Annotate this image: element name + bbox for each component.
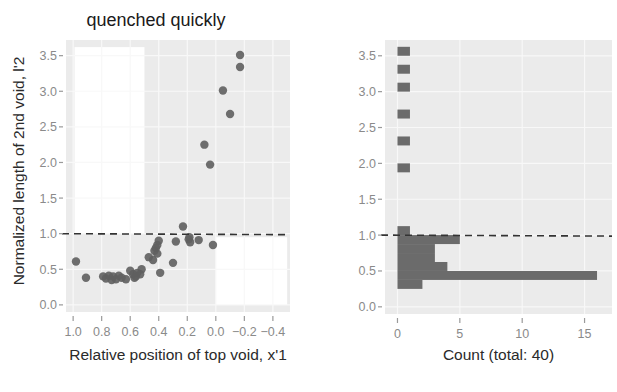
y-tick-label: 0.5	[359, 264, 376, 278]
data-point	[72, 257, 80, 265]
data-point	[156, 269, 164, 277]
data-point	[169, 259, 177, 267]
x-tick-label: 0.8	[93, 325, 110, 339]
histogram-bar	[397, 271, 597, 280]
y-tick-label: 2.0	[359, 157, 376, 171]
histogram-bar	[397, 65, 409, 74]
x-tick-label: 0.2	[179, 325, 196, 339]
x-tick-label: 1.0	[64, 325, 81, 339]
y-tick-label: 1.0	[359, 229, 376, 243]
data-point	[172, 237, 180, 245]
x-tick-label: 10	[515, 327, 529, 341]
x-tick-label: −0.2	[232, 325, 257, 339]
chart-canvas: 0.00.51.01.52.02.53.03.51.00.80.60.40.20…	[0, 0, 617, 392]
x-axis-title: Relative position of top void, x'1	[69, 346, 287, 363]
figure: 0.00.51.01.52.02.53.03.51.00.80.60.40.20…	[0, 0, 617, 392]
y-tick-label: 3.0	[40, 85, 57, 99]
y-tick-label: 2.5	[359, 121, 376, 135]
y-tick-label: 3.5	[359, 49, 376, 63]
data-point	[206, 160, 214, 168]
excluded-region	[216, 237, 287, 305]
histogram-panel: 0.00.51.01.52.02.53.03.5051015Count (tot…	[359, 40, 612, 363]
data-point	[226, 110, 234, 118]
histogram-bar	[397, 163, 409, 172]
data-point	[155, 237, 163, 245]
x-tick-label: 0.6	[122, 325, 139, 339]
y-tick-label: 1.5	[40, 192, 57, 206]
x-tick-label: 0.0	[207, 325, 224, 339]
histogram-bar	[397, 253, 434, 262]
histogram-bar	[397, 47, 409, 56]
data-point	[236, 63, 244, 71]
data-point	[219, 86, 227, 94]
x-tick-label: 0	[394, 327, 401, 341]
histogram-bar	[397, 83, 409, 92]
y-tick-label: 0.5	[40, 263, 57, 277]
y-tick-label: 1.5	[359, 193, 376, 207]
y-tick-label: 2.0	[40, 156, 57, 170]
data-point	[209, 241, 217, 249]
x-tick-label: 5	[456, 327, 463, 341]
data-point	[194, 236, 202, 244]
x-axis-title: Count (total: 40)	[443, 346, 554, 363]
data-point	[179, 222, 187, 230]
histogram-bar	[397, 136, 409, 145]
scatter-panel: 0.00.51.01.52.02.53.03.51.00.80.60.40.20…	[10, 10, 290, 363]
data-point	[107, 276, 115, 284]
histogram-bar	[397, 226, 409, 235]
x-tick-label: 0.4	[150, 325, 167, 339]
data-point	[153, 249, 161, 257]
y-tick-label: 2.5	[40, 120, 57, 134]
data-point	[236, 51, 244, 59]
data-point	[200, 140, 208, 148]
histogram-bar	[397, 235, 459, 244]
excluded-region	[75, 47, 145, 234]
histogram-bar	[397, 262, 447, 271]
y-tick-label: 1.0	[40, 227, 57, 241]
histogram-bar	[397, 280, 422, 289]
histogram-bar	[397, 110, 409, 119]
y-tick-label: 3.5	[40, 49, 57, 63]
y-tick-label: 0.0	[359, 300, 376, 314]
x-tick-label: −0.4	[261, 325, 286, 339]
panel-title: quenched quickly	[86, 10, 225, 30]
data-point	[132, 272, 140, 280]
data-point	[82, 274, 90, 282]
histogram-bar	[397, 244, 434, 253]
y-tick-label: 3.0	[359, 85, 376, 99]
y-axis-title: Normalized length of 2nd void, l'2	[10, 57, 27, 286]
x-tick-label: 15	[578, 327, 592, 341]
data-point	[122, 275, 130, 283]
y-tick-label: 0.0	[40, 298, 57, 312]
